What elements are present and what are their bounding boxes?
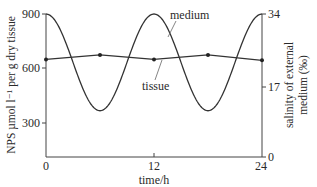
y-right-axis-label-line2: medium (‰) <box>297 55 310 115</box>
tissue-data-point <box>44 57 48 61</box>
y-tick-300: 300 <box>22 116 40 130</box>
x-tick-0: 0 <box>43 159 49 173</box>
y-tick-900: 900 <box>22 7 40 21</box>
annotation-medium: medium <box>170 8 210 22</box>
chart: 900 600 300 34 17 0 0 12 24 time/h NPS µ… <box>0 0 317 187</box>
tissue-data-point <box>206 53 210 57</box>
y-right-tick-17: 17 <box>268 80 280 94</box>
tissue-data-point <box>152 57 156 61</box>
annotation-medium-leader <box>168 21 176 37</box>
x-tick-24: 24 <box>255 159 267 173</box>
x-tick-12: 12 <box>148 159 160 173</box>
tissue-data-point <box>260 58 264 62</box>
y-tick-600: 600 <box>22 61 40 75</box>
y-right-axis-label-line1: salinity of external <box>283 42 296 128</box>
annotation-tissue: tissue <box>142 79 169 93</box>
tissue-data-point <box>98 53 102 57</box>
annotation-tissue-leader <box>155 60 162 80</box>
medium-series-line <box>46 14 262 111</box>
x-axis-label: time/h <box>139 173 170 187</box>
y-right-tick-34: 34 <box>268 7 280 21</box>
y-right-tick-0: 0 <box>268 150 274 164</box>
y-axis-label: NPS µmol l⁻¹ per g dry tissue <box>5 16 18 154</box>
